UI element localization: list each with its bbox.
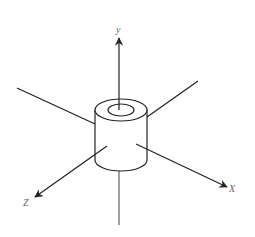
y-axis-label: y [115,24,121,35]
x-axis-label: X [228,183,236,194]
hollow-cylinder [95,99,147,171]
z-axis-label: Z [23,197,29,208]
coordinate-diagram: y X Z [0,0,255,237]
back-right-axis-line [147,81,198,117]
x-axis-line [136,144,227,187]
back-left-axis-line [17,88,95,124]
cylinder-top-inner-hole [108,104,134,116]
z-axis-line [35,146,107,197]
